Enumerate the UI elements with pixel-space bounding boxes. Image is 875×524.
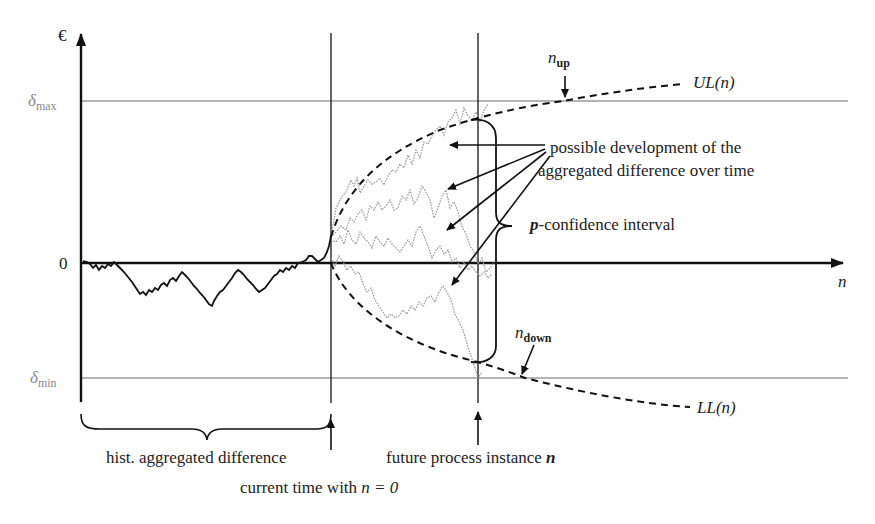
future-process-instance-label: future process instance n: [386, 448, 556, 467]
possible-development-label-line2: aggregated difference over time: [538, 161, 754, 180]
n-up-label: nup: [548, 48, 570, 70]
hist-aggregated-difference-label: hist. aggregated difference: [106, 448, 286, 467]
y-axis-label: €: [58, 26, 67, 45]
confidence-brace: [471, 120, 512, 363]
current-time-label: current time with n = 0: [240, 478, 399, 497]
x-axis-label: n: [838, 272, 847, 291]
historical-path: [83, 236, 331, 306]
lower-limit-curve: [331, 263, 690, 407]
possible-development-label-line1: possible development of the: [550, 138, 741, 157]
upper-limit-label: UL(n): [693, 73, 735, 92]
delta-max-label: δmax: [28, 91, 57, 113]
confidence-interval-label: p-confidence interval: [528, 215, 675, 234]
lower-limit-label: LL(n): [696, 398, 736, 417]
zero-label: 0: [59, 254, 68, 273]
delta-min-label: δmin: [30, 368, 57, 390]
history-brace: [81, 414, 331, 440]
confidence-interval-diagram: € n 0 δmax δmin UL(n) LL(n) nup ndown po…: [0, 0, 875, 524]
n-down-label: ndown: [515, 323, 552, 345]
